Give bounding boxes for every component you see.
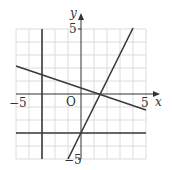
y-axis-arrow-icon [78, 13, 84, 20]
coordinate-graph: y x O −5 5 5 −5 [0, 0, 172, 170]
x-tick-label-max: 5 [141, 96, 149, 110]
y-axis-label: y [69, 6, 77, 20]
y-tick-label-min: −5 [64, 153, 82, 167]
x-tick-label-min: −5 [9, 96, 27, 110]
x-axis-label: x [155, 95, 162, 109]
y-tick-label-max: 5 [69, 22, 77, 36]
origin-label: O [66, 95, 76, 109]
axes [16, 18, 156, 159]
